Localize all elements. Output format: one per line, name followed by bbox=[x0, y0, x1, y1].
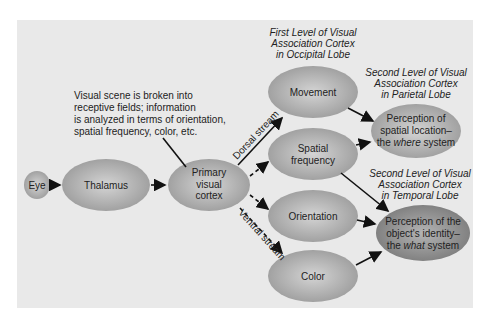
visual-pathway-diagram: Visual scene is broken into receptive fi… bbox=[0, 0, 489, 323]
label-thalamus: Thalamus bbox=[84, 180, 128, 191]
label-what-2: object's identity– bbox=[386, 228, 460, 239]
annotation-line-2: receptive fields; information bbox=[74, 102, 196, 113]
label-where-1: Perception of bbox=[387, 113, 446, 124]
heading-first-level-3: in Occipital Lobe bbox=[276, 49, 350, 60]
heading-temporal-1: Second Level of Visual bbox=[369, 168, 471, 179]
label-what-3: the what system bbox=[387, 240, 459, 251]
node-spatial-frequency bbox=[268, 128, 358, 180]
label-primary-2: visual bbox=[196, 179, 222, 190]
label-where-2: spatial location– bbox=[380, 125, 452, 136]
label-spatial-1: Spatial bbox=[298, 143, 329, 154]
annotation-line-1: Visual scene is broken into bbox=[74, 90, 193, 101]
heading-first-level-1: First Level of Visual bbox=[269, 27, 357, 38]
heading-parietal-1: Second Level of Visual bbox=[365, 67, 467, 78]
label-what-1: Perception of the bbox=[385, 216, 461, 227]
heading-parietal-3: in Parietal Lobe bbox=[381, 89, 451, 100]
annotation-line-3: is analyzed in terms of orientation, bbox=[74, 114, 226, 125]
heading-temporal-2: Association Cortex bbox=[377, 179, 462, 190]
heading-first-level-2: Association Cortex bbox=[270, 38, 355, 49]
label-color: Color bbox=[301, 271, 326, 282]
heading-parietal-2: Association Cortex bbox=[373, 78, 458, 89]
label-eye: Eye bbox=[28, 180, 46, 191]
label-spatial-2: frequency bbox=[291, 155, 335, 166]
label-primary-1: Primary bbox=[192, 167, 226, 178]
label-where-3: the where system bbox=[377, 137, 455, 148]
label-orientation: Orientation bbox=[289, 211, 338, 222]
label-primary-3: cortex bbox=[195, 190, 222, 201]
label-movement: Movement bbox=[290, 87, 337, 98]
heading-temporal-3: in Temporal Lobe bbox=[382, 190, 459, 201]
annotation-line-4: spatial frequency, color, etc. bbox=[74, 126, 197, 137]
